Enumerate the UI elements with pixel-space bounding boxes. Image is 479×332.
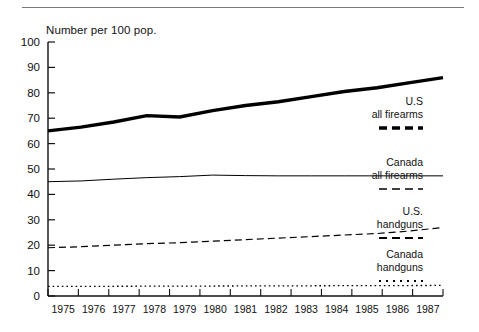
y-tick-label: 20 (27, 239, 40, 251)
x-tick-label: 1980 (203, 303, 227, 315)
y-tick-label: 70 (27, 112, 40, 124)
series-line-0 (48, 78, 443, 131)
x-tick-label: 1986 (386, 303, 410, 315)
y-tick-label: 60 (27, 138, 40, 150)
x-tick-label: 1983 (295, 303, 319, 315)
x-tick-label: 1982 (264, 303, 288, 315)
y-tick-label: 90 (27, 61, 40, 73)
legend-label-1-line2: all firearms (372, 169, 423, 181)
y-axis-group: 0102030405060708090100 (21, 36, 55, 302)
x-tick-label: 1977 (112, 303, 136, 315)
legend-label-3-line2: handguns (377, 261, 423, 273)
y-tick-label: 40 (27, 188, 40, 200)
y-tick-labels: 0102030405060708090100 (21, 36, 40, 302)
y-tick-label: 100 (21, 36, 40, 48)
legend-label-0-line1: U.S (405, 95, 423, 107)
line-chart-canvas: 0102030405060708090100 19751976197719781… (0, 0, 479, 332)
x-tick-marks (48, 289, 443, 296)
y-tick-label: 50 (27, 163, 40, 175)
legend-label-1-line1: Canada (386, 156, 423, 168)
legend-label-0-line2: all firearms (372, 108, 423, 120)
x-axis-group: 1975197619771978197919801981198219831984… (48, 289, 443, 315)
series-line-3 (48, 285, 443, 286)
x-tick-label: 1976 (82, 303, 106, 315)
y-tick-label: 30 (27, 214, 40, 226)
y-tick-label: 10 (27, 265, 40, 277)
x-tick-label: 1978 (143, 303, 167, 315)
chart-page: Number per 100 pop. 01020304050607080901… (0, 0, 479, 332)
legend-label-2-line1: U.S. (403, 205, 423, 217)
x-tick-label: 1981 (234, 303, 258, 315)
legend-label-2-line2: handguns (377, 218, 423, 230)
x-tick-label: 1975 (52, 303, 76, 315)
y-tick-marks (48, 42, 55, 296)
x-tick-label: 1979 (173, 303, 197, 315)
x-tick-label: 1987 (416, 303, 440, 315)
y-tick-label: 80 (27, 87, 40, 99)
x-tick-label: 1985 (355, 303, 379, 315)
x-tick-labels: 1975197619771978197919801981198219831984… (52, 303, 440, 315)
x-tick-label: 1984 (325, 303, 349, 315)
legend-label-3-line1: Canada (386, 248, 423, 260)
y-tick-label: 0 (34, 290, 40, 302)
chart-legend: U.Sall firearmsCanadaall firearmsU.S.han… (372, 95, 424, 281)
